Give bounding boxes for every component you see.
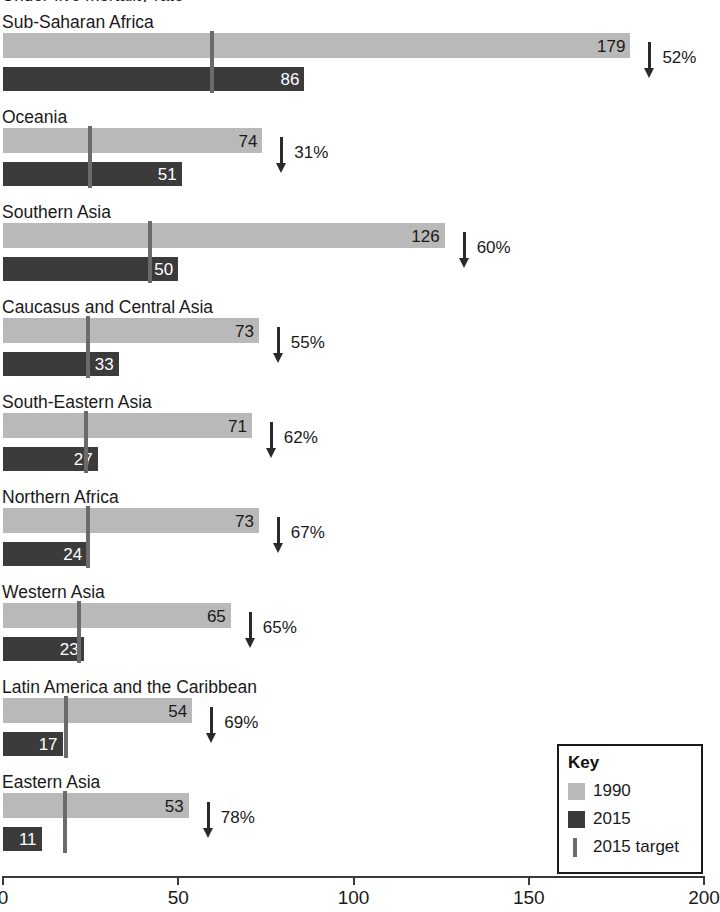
down-arrow-icon: [266, 420, 278, 460]
x-axis-tick-label: 50: [168, 887, 189, 909]
bar-group: Caucasus and Central Asia733355%: [0, 297, 711, 385]
region-label: Eastern Asia: [2, 772, 100, 792]
chart-title-cropped: Under-five mortality rate: [2, 0, 183, 2]
bar-value-2015: 11: [19, 831, 37, 848]
x-axis-tick-label: 100: [338, 887, 370, 909]
bar-1990: 53: [3, 793, 189, 818]
reduction-percent: 31%: [294, 143, 328, 163]
bar-value-1990: 73: [235, 512, 254, 529]
reduction-annotation: 67%: [273, 515, 325, 555]
legend-item-2015: 2015: [568, 805, 701, 833]
bar-1990: 73: [3, 318, 259, 343]
bar-value-1990: 65: [207, 607, 226, 624]
legend-item-1990: 1990: [568, 777, 701, 805]
region-label: Northern Africa: [2, 487, 119, 507]
bar-2015: 17: [3, 732, 63, 756]
reduction-annotation: 31%: [276, 135, 328, 175]
region-label: Latin America and the Caribbean: [2, 677, 257, 697]
x-axis-tick-label: 200: [688, 887, 720, 909]
bar-value-2015: 50: [154, 261, 173, 278]
bar-2015: 86: [3, 67, 304, 91]
region-label: Sub-Saharan Africa: [2, 12, 154, 32]
region-label: Southern Asia: [2, 202, 111, 222]
down-arrow-icon: [206, 705, 218, 745]
bar-value-1990: 71: [228, 417, 247, 434]
down-arrow-icon: [203, 800, 215, 840]
region-label: South-Eastern Asia: [2, 392, 152, 412]
down-arrow-icon: [459, 230, 471, 270]
bar-group: Sub-Saharan Africa1798652%: [0, 12, 711, 100]
legend-label-2015: 2015: [593, 809, 631, 829]
bar-2015: 24: [3, 542, 87, 566]
bar-1990: 54: [3, 698, 192, 723]
target-marker: [148, 221, 152, 283]
reduction-annotation: 55%: [273, 325, 325, 365]
bar-value-1990: 53: [165, 797, 184, 814]
reduction-annotation: 69%: [206, 705, 258, 745]
reduction-annotation: 62%: [266, 420, 318, 460]
bar-1990: 65: [3, 603, 231, 628]
bar-group: Western Asia652365%: [0, 582, 711, 670]
bar-value-2015: 23: [60, 641, 79, 658]
chart-legend: Key 1990 2015 2015 target: [557, 744, 703, 874]
legend-item-target: 2015 target: [568, 833, 701, 861]
x-axis-tick: [528, 876, 530, 885]
x-axis-tick-label: 150: [513, 887, 545, 909]
bar-value-1990: 73: [235, 322, 254, 339]
down-arrow-icon: [644, 40, 656, 80]
target-marker: [63, 791, 67, 853]
down-arrow-icon: [245, 610, 257, 650]
x-axis: 050100150200: [0, 876, 711, 912]
bar-value-2015: 33: [95, 356, 114, 373]
region-label: Oceania: [2, 107, 67, 127]
reduction-percent: 78%: [221, 808, 255, 828]
x-axis-tick: [177, 876, 179, 885]
legend-swatch-target-icon: [568, 838, 585, 857]
bar-1990: 73: [3, 508, 259, 533]
reduction-percent: 67%: [291, 523, 325, 543]
bar-2015: 23: [3, 637, 84, 661]
bar-value-2015: 24: [63, 546, 82, 563]
bar-value-1990: 126: [411, 227, 439, 244]
reduction-annotation: 78%: [203, 800, 255, 840]
bar-value-2015: 17: [39, 736, 58, 753]
legend-title: Key: [568, 753, 701, 773]
target-marker: [64, 696, 68, 758]
target-marker: [84, 411, 88, 473]
bar-value-1990: 54: [168, 702, 187, 719]
bar-2015: 51: [3, 162, 182, 186]
bar-value-1990: 74: [238, 132, 257, 149]
legend-swatch-2015-icon: [568, 811, 585, 828]
bar-value-1990: 179: [597, 37, 625, 54]
bar-value-2015: 86: [281, 71, 300, 88]
reduction-annotation: 60%: [459, 230, 511, 270]
down-arrow-icon: [276, 135, 288, 175]
bar-1990: 71: [3, 413, 252, 438]
bar-value-2015: 51: [158, 166, 177, 183]
bar-2015: 33: [3, 352, 119, 376]
x-axis-tick: [353, 876, 355, 885]
legend-label-target: 2015 target: [593, 837, 679, 857]
region-label: Caucasus and Central Asia: [2, 297, 213, 317]
target-marker: [77, 601, 81, 663]
reduction-percent: 69%: [224, 713, 258, 733]
down-arrow-icon: [273, 515, 285, 555]
reduction-percent: 65%: [263, 618, 297, 638]
target-marker: [86, 316, 90, 378]
target-marker: [86, 506, 90, 568]
region-label: Western Asia: [2, 582, 105, 602]
x-axis-tick: [2, 876, 4, 885]
reduction-annotation: 65%: [245, 610, 297, 650]
target-marker: [88, 126, 92, 188]
reduction-annotation: 52%: [644, 40, 696, 80]
target-marker: [210, 31, 214, 93]
bar-1990: 126: [3, 223, 445, 248]
reduction-percent: 60%: [477, 238, 511, 258]
reduction-percent: 52%: [662, 48, 696, 68]
reduction-percent: 55%: [291, 333, 325, 353]
bar-group: Northern Africa732467%: [0, 487, 711, 575]
legend-swatch-1990-icon: [568, 783, 585, 800]
bar-group: Oceania745131%: [0, 107, 711, 195]
legend-label-1990: 1990: [593, 781, 631, 801]
